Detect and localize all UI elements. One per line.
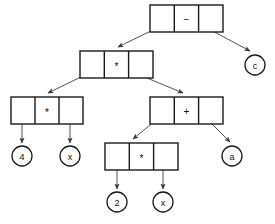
operator-label-asterisk: * [45,107,49,118]
node-box-plus[interactable]: + [150,97,223,124]
operator-label-minus: − [184,14,190,25]
tree-canvas: − * * + * [0,0,275,224]
leaf-node-x-left[interactable]: x [60,146,80,166]
operator-label-asterisk: * [115,61,119,72]
leaf-label: 2 [114,198,119,208]
leaf-label: c [253,61,258,71]
leaf-label: x [68,152,73,162]
node-box-mul-left[interactable]: * [11,97,83,124]
operator-label-asterisk: * [140,153,144,164]
expression-tree-diagram: − * * + * [0,0,275,224]
node-box-mul-bottom[interactable]: * [105,143,178,170]
leaf-node-4[interactable]: 4 [12,146,32,166]
leaf-label: x [161,198,166,208]
leaf-node-a[interactable]: a [222,146,242,166]
node-box-root-minus[interactable]: − [150,5,223,32]
leaf-label: 4 [19,152,24,162]
leaf-node-2[interactable]: 2 [107,192,127,212]
leaf-node-x-bottom[interactable]: x [153,192,173,212]
node-box-mul-top[interactable]: * [80,51,153,78]
operator-label-plus: + [184,106,190,117]
leaf-node-c[interactable]: c [245,55,265,75]
leaf-label: a [229,152,234,162]
